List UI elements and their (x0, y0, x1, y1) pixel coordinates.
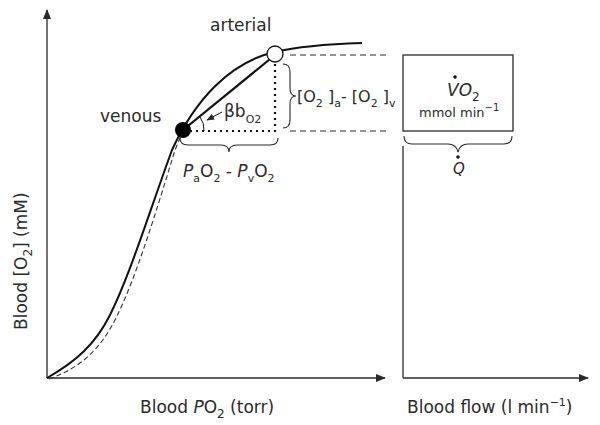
flow-brace (404, 136, 512, 152)
x-axis-label: Blood PO2 (torr) (140, 397, 274, 421)
pressure-brace (180, 138, 278, 152)
y-axis-label: Blood [O2] (mM) (11, 192, 35, 330)
concentration-difference-label: [O2 ]a- [O2 ]v (297, 87, 396, 110)
slope-label: βbO2 (224, 101, 261, 126)
pressure-difference-label: PaO2 - PvO2 (183, 161, 275, 185)
arterial-label: arterial (210, 15, 271, 35)
right-x-axis-label: Blood flow (l min−1) (407, 396, 572, 417)
venous-label: venous (100, 106, 161, 126)
fick-principle-diagram: Blood [O2] (mM) Blood PO2 (torr) βbO2 ar… (0, 0, 600, 425)
arterial-point (267, 46, 283, 62)
vo2-dot (453, 75, 457, 79)
concentration-brace (283, 64, 296, 128)
venous-point (175, 122, 191, 138)
slope-angle-arc (200, 117, 204, 131)
venous-side-curve (49, 131, 183, 379)
q-dot (456, 155, 460, 159)
flow-label: Q (453, 160, 465, 178)
slope-angle-pointer (207, 112, 222, 120)
